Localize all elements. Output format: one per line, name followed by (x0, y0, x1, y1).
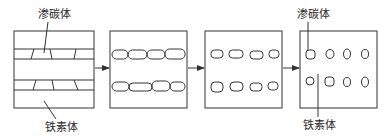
label-ferrite-stage1: 铁素体 (45, 122, 78, 134)
stage-4-box (300, 22, 377, 117)
label-ferrite-stage4: 铁素体 (303, 120, 336, 132)
stage-3-box (205, 31, 282, 108)
stage-2-box (110, 31, 187, 108)
label-cementite-stage4: 渗碳体 (297, 9, 330, 21)
label-cementite-stage1: 渗碳体 (38, 9, 71, 21)
stage-1-box (14, 22, 94, 119)
